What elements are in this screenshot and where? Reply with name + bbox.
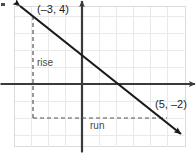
point-label-a: (–3, 4)	[37, 4, 69, 15]
slope-graph-figure: (–3, 4) (5, –2) rise run	[0, 0, 196, 153]
run-label: run	[90, 121, 104, 131]
point-label-b: (5, –2)	[155, 99, 187, 110]
rise-label: rise	[37, 58, 53, 68]
